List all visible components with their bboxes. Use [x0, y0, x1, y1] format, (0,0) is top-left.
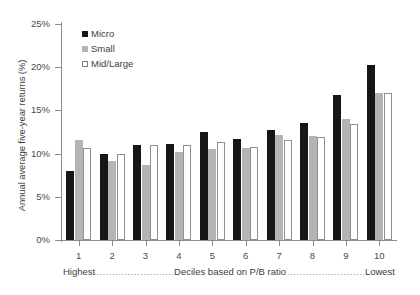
bar-mid-large-decile-9	[350, 124, 358, 240]
bar-group	[200, 24, 225, 240]
bar-mid-large-decile-3	[150, 145, 158, 240]
x-axis-label: 8	[298, 250, 328, 261]
legend-item-mid-large: Mid/Large	[82, 56, 133, 71]
y-axis-label: 5%	[14, 191, 50, 202]
bar-mid-large-decile-2	[117, 154, 125, 240]
x-axis-tick	[313, 241, 314, 246]
bar-group	[367, 24, 392, 240]
bar-group	[300, 24, 325, 240]
bar-group	[333, 24, 358, 240]
bar-group	[267, 24, 292, 240]
y-axis-tick	[55, 240, 62, 241]
bar-chart: Annual average five-year returns (%) 0%5…	[0, 0, 420, 295]
legend-label: Micro	[91, 26, 114, 41]
x-axis-tick	[246, 241, 247, 246]
bar-small-decile-1	[75, 140, 83, 240]
x-axis-label: 4	[164, 250, 194, 261]
y-axis-label: 20%	[14, 61, 50, 72]
x-axis-label: 6	[231, 250, 261, 261]
y-axis-label: 25%	[14, 18, 50, 29]
bar-micro-decile-9	[333, 95, 341, 240]
filled-gray-square-icon	[82, 46, 88, 52]
y-axis-tick	[55, 24, 62, 25]
bar-micro-decile-2	[100, 154, 108, 240]
x-axis-tick	[279, 241, 280, 246]
bar-micro-decile-6	[233, 139, 241, 240]
filled-black-square-icon	[82, 31, 88, 37]
bar-micro-decile-8	[300, 123, 308, 240]
bar-micro-decile-7	[267, 130, 275, 240]
legend-item-micro: Micro	[82, 26, 133, 41]
caption-right: Lowest	[364, 266, 396, 277]
bar-small-decile-2	[108, 161, 116, 240]
x-axis-tick	[146, 241, 147, 246]
x-axis-label: 10	[364, 250, 394, 261]
bar-small-decile-5	[208, 149, 216, 240]
bar-small-decile-8	[309, 136, 317, 240]
bar-mid-large-decile-7	[284, 140, 292, 240]
chart-legend: MicroSmallMid/Large	[82, 26, 133, 71]
x-axis-tick	[179, 241, 180, 246]
bar-mid-large-decile-8	[317, 137, 325, 240]
bar-small-decile-3	[142, 165, 150, 240]
bar-micro-decile-5	[200, 132, 208, 240]
bar-mid-large-decile-1	[83, 148, 91, 240]
x-axis-tick	[212, 241, 213, 246]
y-axis-tick	[55, 197, 62, 198]
bar-micro-decile-3	[133, 145, 141, 240]
bar-group	[133, 24, 158, 240]
caption-left: Highest	[62, 266, 96, 277]
caption-dots-right: ........................................	[287, 266, 364, 277]
outlined-white-square-icon	[82, 61, 88, 67]
x-axis-label: 1	[64, 250, 94, 261]
bar-mid-large-decile-5	[217, 142, 225, 240]
y-axis-label: 15%	[14, 104, 50, 115]
bar-small-decile-10	[375, 93, 383, 240]
bar-micro-decile-10	[367, 65, 375, 240]
x-axis-caption: Highest ................................…	[62, 266, 396, 277]
x-axis-label: 7	[264, 250, 294, 261]
bar-mid-large-decile-10	[384, 93, 392, 240]
y-axis-tick	[55, 110, 62, 111]
x-axis-label: 9	[331, 250, 361, 261]
bar-micro-decile-1	[66, 171, 74, 240]
x-axis-tick	[346, 241, 347, 246]
y-axis-label: 0%	[14, 234, 50, 245]
x-axis-tick	[112, 241, 113, 246]
y-axis-label: 10%	[14, 148, 50, 159]
caption-dots-left: ........................................	[96, 266, 173, 277]
bar-small-decile-9	[342, 119, 350, 240]
x-axis-label: 3	[131, 250, 161, 261]
x-axis-label: 5	[197, 250, 227, 261]
bar-mid-large-decile-4	[183, 145, 191, 240]
bar-micro-decile-4	[166, 144, 174, 240]
caption-middle: Deciles based on P/B ratio	[173, 266, 287, 277]
x-axis-tick	[379, 241, 380, 246]
bar-small-decile-6	[242, 148, 250, 240]
bar-small-decile-4	[175, 152, 183, 240]
bar-small-decile-7	[275, 135, 283, 240]
legend-label: Mid/Large	[91, 56, 133, 71]
x-axis-tick	[79, 241, 80, 246]
legend-label: Small	[91, 41, 115, 56]
x-axis-label: 2	[97, 250, 127, 261]
bar-mid-large-decile-6	[250, 147, 258, 240]
bar-group	[233, 24, 258, 240]
bar-group	[166, 24, 191, 240]
y-axis-tick	[55, 154, 62, 155]
y-axis-tick	[55, 67, 62, 68]
legend-item-small: Small	[82, 41, 133, 56]
